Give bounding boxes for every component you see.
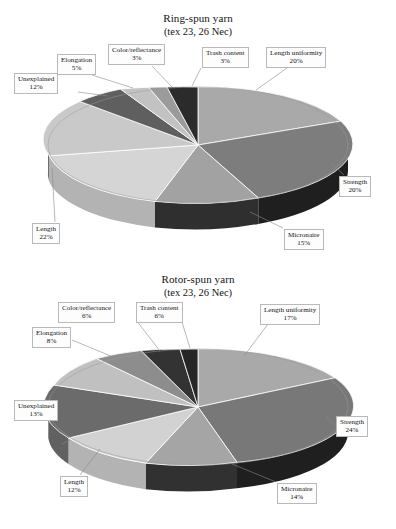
chart-rotor-spun-yarn: Rotor-spun yarn (tex 23, 26 Nec) xyxy=(0,264,396,529)
callout-length-uniformity: Length uniformity 20% xyxy=(266,47,326,68)
callout-unexplained-2: Unexplained 13% xyxy=(14,400,58,421)
pie-top-slices-1 xyxy=(43,87,353,204)
callout-color-reflectance-2: Color/reflectance 6% xyxy=(58,302,115,323)
callout-length: Length 22% xyxy=(32,223,60,244)
callout-color-reflectance: Color/reflectance 3% xyxy=(108,44,165,65)
callout-trash-content-2: Trash content 6% xyxy=(136,302,183,323)
callout-strength: Strength 20% xyxy=(339,176,371,197)
callout-length-2: Length 12% xyxy=(60,476,88,497)
callout-strength-2: Strength 24% xyxy=(336,416,368,437)
callout-trash-content: Trash content 3% xyxy=(202,47,249,68)
callout-elongation-2: Elongation 8% xyxy=(32,327,71,348)
chart-ring-spun-yarn: Ring-spun yarn (tex 23, 26 Nec) xyxy=(0,0,396,264)
callout-micronaire: Micronaire 15% xyxy=(284,229,324,250)
callout-micronaire-2: Micronaire 14% xyxy=(277,483,317,504)
callout-elongation: Elongation 5% xyxy=(57,54,96,75)
callout-length-uniformity-2: Length uniformity 17% xyxy=(260,304,320,325)
callout-unexplained: Unexplained 12% xyxy=(14,73,58,94)
